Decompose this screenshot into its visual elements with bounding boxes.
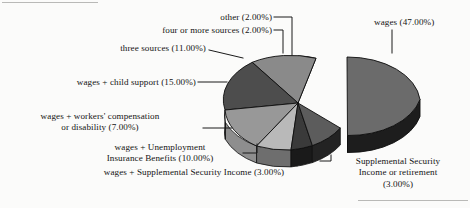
slice-label-wages: wages (47.00%) bbox=[374, 17, 470, 28]
slice-label-supplemental-security-income-retirement-line1: Supplemental Security bbox=[330, 156, 466, 167]
slice-label-wages-unemployment-insurance: wages + Unemployment Insurance Benefits … bbox=[78, 142, 242, 165]
side-wall-child-support bbox=[225, 110, 226, 139]
slice-label-wages-workers-compensation-line1: wages + workers' compensation bbox=[2, 111, 198, 122]
slice-label-wages-unemployment-insurance-line2: Insurance Benefits (10.00%) bbox=[78, 153, 242, 164]
pie-chart-figure: other (2.00%) four or more sources (2.00… bbox=[0, 0, 470, 208]
slice-label-supplemental-security-income-retirement-line3: (3.00%) bbox=[330, 179, 466, 190]
slice-label-four-or-more-sources: four or more sources (2.00%) bbox=[86, 25, 272, 36]
slice-label-three-sources: three sources (11.00%) bbox=[46, 43, 206, 54]
slice-label-wages-supplemental-security-income: wages + Supplemental Security Income (3.… bbox=[72, 167, 316, 178]
slice-label-wages-workers-compensation: wages + workers' compensation or disabil… bbox=[2, 111, 198, 134]
leader-line-three-sources bbox=[209, 50, 243, 58]
slice-label-wages-workers-compensation-line2: or disability (7.00%) bbox=[2, 122, 198, 133]
pie-slices bbox=[223, 55, 340, 150]
slice-label-wages-child-support: wages + child support (15.00%) bbox=[10, 77, 196, 88]
slice-label-supplemental-security-income-retirement: Supplemental Security Income or retireme… bbox=[330, 156, 466, 190]
leader-line-four-or-more-sources bbox=[274, 30, 283, 53]
slice-label-supplemental-security-income-retirement-line2: Income or retirement bbox=[330, 167, 466, 178]
slice-label-other: other (2.00%) bbox=[140, 12, 272, 23]
slice-label-wages-unemployment-insurance-line1: wages + Unemployment bbox=[78, 142, 242, 153]
slice-wages-exploded-group bbox=[347, 57, 420, 153]
